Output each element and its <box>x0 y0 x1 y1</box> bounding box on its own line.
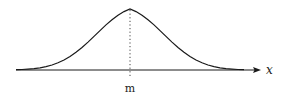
x-axis-label: x <box>266 63 273 77</box>
bell-curve-diagram: x m <box>0 0 290 101</box>
mean-label: m <box>125 82 136 95</box>
